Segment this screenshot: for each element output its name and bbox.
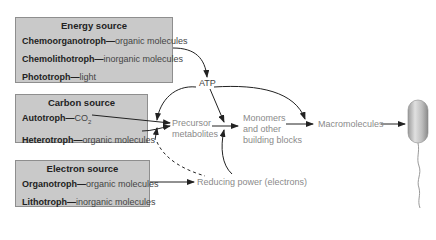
atp-label: ATP [199, 78, 216, 89]
dashed-reducing-link [157, 142, 205, 176]
flagellum-icon [418, 143, 420, 208]
autotroph-to-precursor-arrow [92, 115, 170, 123]
reducing-power-label: Reducing power (electrons) [197, 177, 307, 188]
precursor-metabolites-label: Precursor metabolites [172, 118, 218, 140]
energy-to-atp-arrow [173, 48, 207, 77]
macromolecules-label: Macromolecules [318, 119, 384, 130]
monomers-line-3: building blocks [243, 135, 302, 146]
precursor-line-2: metabolites [172, 129, 218, 140]
monomers-line-2: and other [243, 124, 302, 135]
monomers-line-1: Monomers [243, 113, 302, 124]
heterotroph-to-precursor-arrow [142, 126, 170, 131]
reducing-power-to-monomers-arrow [222, 130, 232, 174]
atp-to-precursor-arrow [157, 87, 196, 120]
bacterium-icon [408, 100, 428, 208]
precursor-line-1: Precursor [172, 118, 218, 129]
monomers-label: Monomers and other building blocks [243, 113, 302, 146]
